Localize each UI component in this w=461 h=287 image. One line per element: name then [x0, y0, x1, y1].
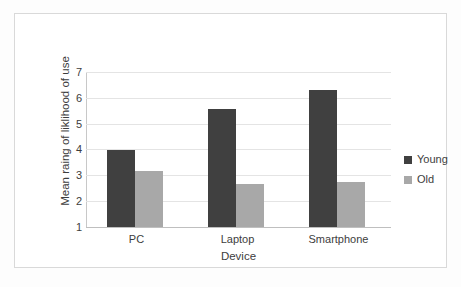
- bar-smartphone-young: [309, 90, 337, 227]
- x-category-laptop: Laptop: [187, 233, 288, 246]
- y-tick-1: 1: [60, 222, 82, 233]
- x-category-pc: PC: [86, 233, 187, 246]
- bar-group-pc: [86, 72, 187, 227]
- bar-smartphone-old: [337, 182, 365, 227]
- bar-group-laptop: [187, 72, 288, 227]
- bar-laptop-old: [236, 184, 264, 227]
- x-category-smartphone: Smartphone: [288, 233, 389, 246]
- chart-figure: Mean raing of liklihood of use 7 6 5 4 3…: [0, 0, 461, 287]
- chart-legend: Young Old: [404, 154, 461, 194]
- legend-swatch-old-icon: [404, 176, 412, 184]
- y-tick-5: 5: [60, 119, 82, 130]
- legend-item-young: Young: [404, 154, 461, 165]
- y-tick-2: 2: [60, 196, 82, 207]
- plot-area: [86, 72, 391, 227]
- y-tick-7: 7: [60, 67, 82, 78]
- legend-item-old: Old: [404, 174, 461, 185]
- x-axis-title: Device: [86, 250, 391, 262]
- x-axis-line: [86, 227, 391, 228]
- bar-laptop-young: [208, 109, 236, 227]
- legend-label-old: Old: [417, 174, 434, 185]
- y-tick-3: 3: [60, 170, 82, 181]
- y-axis-tick-labels: 7 6 5 4 3 2 1: [58, 72, 82, 227]
- chart-frame: Mean raing of liklihood of use 7 6 5 4 3…: [14, 13, 447, 268]
- legend-swatch-young-icon: [404, 156, 412, 164]
- bar-group-smartphone: [288, 72, 389, 227]
- y-tick-6: 6: [60, 93, 82, 104]
- bar-pc-old: [135, 171, 163, 227]
- bar-pc-young: [107, 150, 135, 228]
- legend-label-young: Young: [417, 154, 448, 165]
- y-axis-title-container: Mean raing of liklihood of use: [41, 69, 57, 229]
- y-tick-4: 4: [60, 144, 82, 155]
